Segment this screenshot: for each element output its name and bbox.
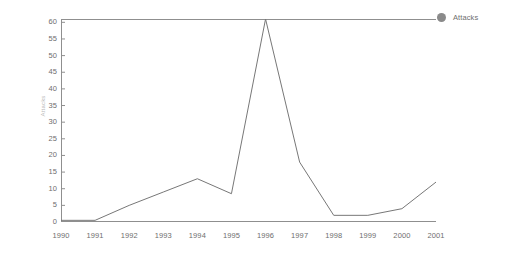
y-tick-label: 60 [5,18,57,26]
x-tick-label: 2001 [416,231,456,240]
y-tick-label: 0 [5,218,57,226]
y-tick-label: 5 [5,201,57,209]
data-series-attacks [61,19,436,220]
y-tick-label: 50 [5,52,57,60]
y-tick-label: 45 [5,68,57,76]
axis-lines [61,19,436,222]
y-tick-label: 10 [5,185,57,193]
legend-marker-icon [437,13,446,22]
axis-ticks [61,22,436,222]
y-tick-label: 35 [5,102,57,110]
legend-label: Attacks [453,13,478,22]
line-chart: Attacks 605550454035302520151050 1990199… [0,0,520,256]
y-axis-tick-labels: 605550454035302520151050 [0,0,57,256]
y-tick-label: 55 [5,35,57,43]
y-tick-label: 25 [5,135,57,143]
y-tick-label: 40 [5,85,57,93]
x-axis-tick-labels: 1990199119921993199419951996199719981999… [61,231,436,245]
y-tick-label: 15 [5,168,57,176]
plot-svg [61,19,436,222]
plot-area [61,19,436,222]
chart-legend: Attacks [437,13,478,22]
y-tick-label: 20 [5,151,57,159]
y-tick-label: 30 [5,118,57,126]
